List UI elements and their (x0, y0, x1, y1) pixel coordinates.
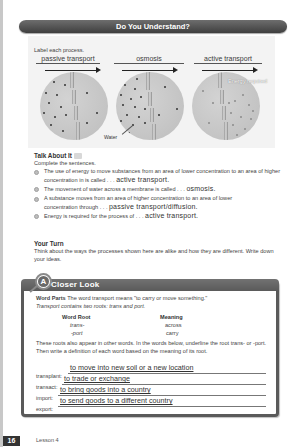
lesson-label: Lesson 4 (36, 437, 59, 443)
table-cell-root: trans- (70, 322, 84, 330)
word-parts-intro: Word Parts The word transport means "to … (36, 295, 276, 303)
definition-row: export: to send goods to a different cou… (36, 397, 266, 407)
workbook-page: Do You Understand? Label each process. p… (0, 0, 306, 447)
definition-term: export: (36, 406, 53, 412)
label-active-transport[interactable]: active transport (194, 55, 262, 64)
bullet-icon (34, 170, 39, 175)
definition-answer[interactable]: to trade or exchange (64, 374, 130, 383)
bullet-icon (34, 187, 39, 192)
sentence-answer[interactable]: osmosis. (186, 185, 215, 192)
bullet-icon (34, 197, 39, 202)
passive-transport-illustration (40, 72, 108, 140)
table-cell-meaning: carry (166, 330, 178, 338)
word-parts-definition: The word transport means "to carry or mo… (67, 295, 207, 301)
sentence-answer[interactable]: active transport. (116, 176, 169, 183)
definition-row: import: to bring goods into a country (36, 386, 266, 396)
sentence-text: The movement of water across a membrane … (44, 186, 185, 192)
closer-look-instructions: These roots also appear in other words. … (36, 340, 268, 355)
sentence-text: Energy is required for the process of . … (44, 213, 144, 219)
table-header-meaning: Meaning (160, 314, 183, 322)
your-turn-text: Think about the ways the processes shown… (34, 248, 274, 263)
label-passive-transport[interactable]: passive transport (36, 55, 100, 64)
your-turn-title: Your Turn (34, 240, 64, 247)
sentence-answer[interactable]: passive transport/diffusion. (109, 203, 198, 210)
talk-about-it-label: Talk About It (34, 152, 72, 159)
water-caption: Water (104, 134, 117, 140)
table-cell-root: -port (71, 330, 83, 338)
definition-answer[interactable]: to move into new soil or a new location (70, 363, 193, 372)
closer-look-badge: A (38, 276, 49, 287)
definition-answer[interactable]: to send goods to a different country (60, 396, 173, 405)
table-cell-meaning: across (165, 322, 181, 330)
sentence-item: A substance moves from an area of higher… (44, 195, 264, 211)
talk-about-it-title: Talk About It (34, 152, 82, 159)
section-header: Do You Understand? (19, 20, 287, 33)
sentence-answer[interactable]: active transport. (145, 212, 198, 219)
sentence-item: The movement of water across a membrane … (44, 185, 294, 194)
bullet-icon (34, 214, 39, 219)
table-header-root: Word Root (62, 314, 90, 322)
word-parts-label: Word Parts (36, 295, 66, 301)
word-parts-roots: Transport contains two roots: trans and … (36, 303, 276, 311)
definition-row: transplant: to move into new soil or a n… (36, 364, 266, 374)
talk-prompt: Complete the sentences. (34, 160, 96, 168)
sentence-item: The use of energy to move substances fro… (44, 168, 299, 184)
energy-required-caption: Energy required (228, 78, 267, 84)
definition-answer[interactable]: to bring goods into a country (60, 385, 151, 394)
diagram-instruction: Label each process. (34, 47, 84, 53)
label-osmosis[interactable]: osmosis (114, 55, 184, 64)
answer-line (58, 406, 266, 407)
page-number: 16 (3, 436, 20, 446)
closer-look-title: Closer Look (51, 280, 99, 289)
speech-icon (74, 153, 82, 159)
definition-row: transact: to trade or exchange (36, 375, 266, 385)
sentence-item: Energy is required for the process of . … (44, 212, 294, 221)
